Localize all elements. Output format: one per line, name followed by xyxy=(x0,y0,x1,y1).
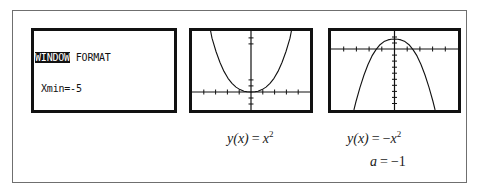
window-menu-label[interactable]: WINDOW xyxy=(35,52,70,63)
window-format-screen[interactable]: WINDOW FORMAT Xmin=-5 Xmax=5 Xscl=1 Ymin… xyxy=(31,28,177,113)
format-menu-label[interactable]: FORMAT xyxy=(70,52,111,63)
graph-screen-parabola-down[interactable] xyxy=(328,28,461,113)
caption-left-equals: = xyxy=(249,131,263,146)
caption-right-exponent: 2 xyxy=(397,129,402,139)
caption-right-sign: − xyxy=(383,131,391,146)
caption-parabola-down: y(x)=−x2 xyxy=(347,131,401,147)
caption-left-arg: (x) xyxy=(233,131,249,146)
coefficient-equals: = xyxy=(377,154,391,169)
caption-right-equals: = xyxy=(369,131,383,146)
graph-screen-parabola-up[interactable] xyxy=(189,28,313,113)
caption-parabola-up: y(x)=x2 xyxy=(227,131,273,147)
lcd-text-area: WINDOW FORMAT Xmin=-5 Xmax=5 Xscl=1 Ymin… xyxy=(34,31,174,113)
caption-left-exponent: 2 xyxy=(269,129,274,139)
parabola-up-plot xyxy=(192,31,310,110)
caption-coefficient-a: a=−1 xyxy=(370,154,406,170)
coefficient-value: −1 xyxy=(391,154,406,169)
window-format-header: WINDOW FORMAT xyxy=(35,53,174,63)
parabola-down-plot xyxy=(331,31,458,110)
coefficient-symbol: a xyxy=(370,154,377,169)
setting-row-xmin[interactable]: Xmin=-5 xyxy=(35,84,174,94)
caption-right-arg: (x) xyxy=(353,131,369,146)
figure-frame: WINDOW FORMAT Xmin=-5 Xmax=5 Xscl=1 Ymin… xyxy=(12,10,467,183)
